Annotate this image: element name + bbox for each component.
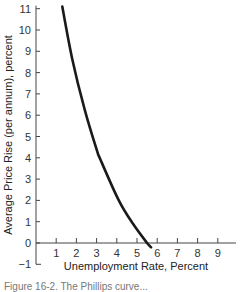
- y-tick-label: −1: [18, 258, 31, 270]
- y-tick-label: 1: [25, 216, 31, 228]
- y-tick-label: 9: [25, 45, 31, 57]
- y-axis: −101234567891011: [18, 3, 41, 271]
- y-tick-label: 7: [25, 88, 31, 100]
- x-tick-label: 8: [195, 247, 201, 259]
- y-tick-label: 2: [25, 194, 31, 206]
- figure-caption: Figure 16-2. The Phillips curve...: [4, 281, 148, 292]
- y-tick-label: 0: [25, 237, 31, 249]
- x-tick-label: 9: [215, 247, 221, 259]
- x-tick-label: 5: [134, 247, 140, 259]
- y-tick-label: 11: [20, 3, 31, 15]
- y-tick-label: 5: [25, 131, 31, 143]
- y-tick-label: 10: [19, 24, 31, 36]
- y-tick-label: 8: [25, 67, 31, 79]
- x-tick-label: 3: [94, 247, 100, 259]
- y-axis-label: Average Price Rise (per annum), percent: [2, 35, 14, 235]
- x-tick-label: 1: [53, 247, 59, 259]
- data-curve: [62, 7, 151, 248]
- x-axis-label: Unemployment Rate, Percent: [64, 260, 208, 272]
- x-tick-label: 2: [73, 247, 79, 259]
- x-axis: 123456789: [36, 238, 236, 259]
- x-tick-label: 7: [174, 247, 180, 259]
- y-tick-label: 6: [25, 109, 31, 121]
- x-tick-label: 4: [114, 247, 120, 259]
- y-tick-label: 3: [25, 173, 31, 185]
- x-tick-label: 6: [154, 247, 160, 259]
- y-tick-label: 4: [25, 152, 31, 164]
